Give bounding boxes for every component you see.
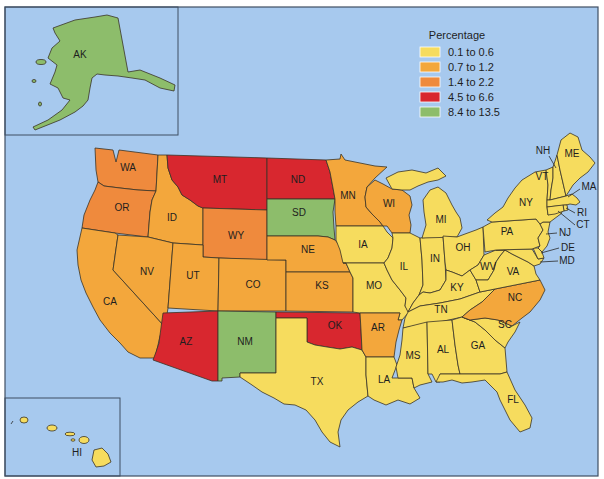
label-AK: AK [73,49,87,60]
label-MD: MD [559,255,575,266]
label-VA: VA [507,266,520,277]
label-GA: GA [471,340,486,351]
label-VT: VT [536,171,549,182]
legend-label: 8.4 to 13.5 [448,106,500,118]
state-HI-island [20,417,28,423]
legend-label: 0.1 to 0.6 [448,46,494,58]
legend-label: 4.5 to 6.6 [448,91,494,103]
us-choropleth-map: AK HI WA OR CA ID MT WY NV UT CO AZ NM N… [0,0,604,479]
label-ME: ME [565,148,580,159]
legend-swatch [420,107,440,117]
label-SD: SD [292,207,306,218]
label-NV: NV [140,266,154,277]
legend-item: 0.7 to 1.2 [420,61,494,73]
label-KY: KY [450,282,464,293]
label-KS: KS [315,280,329,291]
legend-item: 4.5 to 6.6 [420,91,494,103]
label-OR: OR [115,202,130,213]
label-WY: WY [228,230,244,241]
state-HI-island [79,437,89,444]
legend-title: Percentage [429,29,485,41]
label-WV: WV [480,261,496,272]
label-OK: OK [328,320,343,331]
label-ID: ID [167,212,177,223]
label-NJ: NJ [559,227,571,238]
label-TN: TN [434,304,447,315]
label-PA: PA [501,226,514,237]
label-IN: IN [430,253,440,264]
state-HI-island [47,425,57,431]
legend-item: 1.4 to 2.2 [420,76,494,88]
label-CT: CT [576,219,589,230]
alaska-island [32,80,36,83]
label-TX: TX [311,376,324,387]
label-MT: MT [213,174,227,185]
label-AZ: AZ [180,336,193,347]
label-NE: NE [301,244,315,255]
label-ND: ND [291,174,305,185]
state-KS [286,272,353,312]
label-OH: OH [456,242,471,253]
state-HI-island [65,432,75,436]
legend-item: 0.1 to 0.6 [420,46,494,58]
label-NC: NC [508,292,522,303]
label-RI: RI [577,207,587,218]
label-MN: MN [340,190,356,201]
label-NH: NH [536,145,550,156]
legend-swatch [420,62,440,72]
label-NY: NY [519,197,533,208]
state-HI-island [71,439,75,441]
label-IA: IA [358,239,368,250]
label-MS: MS [406,350,421,361]
state-SD [267,199,335,240]
legend-label: 0.7 to 1.2 [448,61,494,73]
alaska-island [36,60,46,65]
label-WI: WI [383,198,395,209]
legend-swatch [420,92,440,102]
label-HI: HI [72,447,82,458]
label-NM: NM [237,336,253,347]
label-DE: DE [561,242,575,253]
label-MI: MI [435,214,446,225]
legend-swatch [420,77,440,87]
label-SC: SC [498,319,512,330]
label-CO: CO [246,279,261,290]
label-IL: IL [400,261,409,272]
label-LA: LA [378,374,391,385]
label-CA: CA [103,296,117,307]
label-AL: AL [437,344,450,355]
label-UT: UT [186,270,199,281]
label-MO: MO [366,280,382,291]
label-AR: AR [371,322,385,333]
legend-label: 1.4 to 2.2 [448,76,494,88]
alaska-island [39,102,42,106]
label-FL: FL [507,394,519,405]
label-WA: WA [120,162,136,173]
legend-swatch [420,47,440,57]
label-MA: MA [582,181,597,192]
legend-item: 8.4 to 13.5 [420,106,500,118]
